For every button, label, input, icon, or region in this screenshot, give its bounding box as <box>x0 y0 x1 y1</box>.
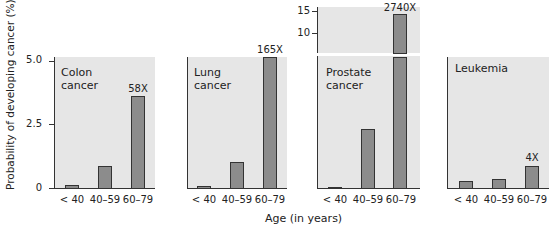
prostate-cat-40-59: 40–59 <box>350 194 386 205</box>
prostate-y-tickmark-10 <box>312 33 317 34</box>
leukemia-cat-under40: < 40 <box>448 194 484 205</box>
y-tick-5: 5.0 <box>12 54 42 65</box>
colon-cat-under40: < 40 <box>54 194 90 205</box>
lung-bar-under40 <box>197 186 211 189</box>
lung-title: Lungcancer <box>194 66 231 92</box>
leukemia-title: Leukemia <box>455 62 508 75</box>
lung-cat-60-79: 60–79 <box>252 194 288 205</box>
prostate-y-axis-lower <box>317 56 318 189</box>
prostate-title: Prostatecancer <box>326 66 371 92</box>
lung-cat-40-59: 40–59 <box>219 194 255 205</box>
leukemia-bar-60-79 <box>525 166 539 189</box>
leukemia-cat-60-79: 60–79 <box>514 194 549 205</box>
prostate-bar-under40 <box>328 187 342 189</box>
prostate-y-tick-15: 15 <box>280 5 310 16</box>
prostate-annotation: 2740X <box>380 2 420 13</box>
lung-bar-40-59 <box>230 162 244 189</box>
x-axis-label: Age (in years) <box>265 212 342 225</box>
colon-annotation: 58X <box>118 83 158 94</box>
prostate-bar-40-59 <box>361 129 375 189</box>
colon-cat-60-79: 60–79 <box>120 194 156 205</box>
prostate-cat-under40: < 40 <box>317 194 353 205</box>
colon-bar-60-79 <box>131 96 145 189</box>
leukemia-cat-40-59: 40–59 <box>481 194 517 205</box>
lung-annotation: 165X <box>250 44 290 55</box>
leukemia-annotation: 4X <box>512 152 549 163</box>
colon-cat-40-59: 40–59 <box>87 194 123 205</box>
lung-cat-under40: < 40 <box>186 194 222 205</box>
y-axis-label: Probability of developing cancer (%) <box>4 0 16 190</box>
lung-bar-60-79 <box>263 57 277 189</box>
leukemia-bar-40-59 <box>492 179 506 189</box>
y-tick-2-5: 2.5 <box>12 118 42 129</box>
prostate-y-tick-10: 10 <box>280 27 310 38</box>
leukemia-y-axis <box>447 57 448 189</box>
prostate-bar-60-79-upper <box>393 14 407 54</box>
prostate-cat-60-79: 60–79 <box>383 194 419 205</box>
leukemia-bar-under40 <box>459 181 473 189</box>
colon-y-axis <box>54 57 55 189</box>
colon-bar-40-59 <box>98 166 112 189</box>
colon-title: Coloncancer <box>61 66 98 92</box>
colon-bar-under40 <box>65 185 79 189</box>
prostate-y-axis-upper <box>317 7 318 53</box>
prostate-bar-60-79-lower <box>393 57 407 189</box>
lung-y-axis <box>187 57 188 189</box>
y-tick-0: 0 <box>12 182 42 193</box>
prostate-y-tickmark-15 <box>312 11 317 12</box>
